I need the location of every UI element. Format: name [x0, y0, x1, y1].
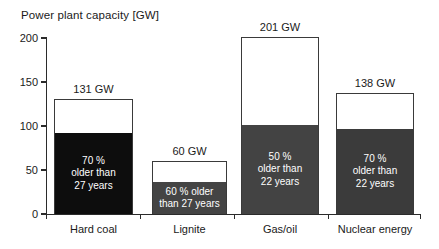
- chart-figure: Power plant capacity [GW] 050100150200 1…: [0, 0, 439, 249]
- bar-inner-label-3: 70 %older than22 years: [353, 153, 397, 191]
- y-axis-line: [46, 37, 47, 215]
- bar-value-label-1: 60 GW: [172, 145, 206, 157]
- y-tick-100: [41, 125, 46, 126]
- category-label-nuclear-energy: Nuclear energy: [338, 223, 413, 235]
- bar-inner-label-1: 60 % olderthan 27 years: [159, 186, 220, 211]
- y-tick-label-50: 50: [2, 164, 38, 176]
- x-tick-0: [46, 214, 47, 219]
- y-tick-150: [41, 81, 46, 82]
- x-tick-3: [328, 214, 329, 219]
- x-tick-1: [140, 214, 141, 219]
- y-tick-50: [41, 169, 46, 170]
- x-tick-4: [420, 214, 421, 219]
- y-tick-label-100: 100: [2, 120, 38, 132]
- y-tick-label-150: 150: [2, 76, 38, 88]
- y-tick-200: [41, 37, 46, 38]
- y-tick-label-0: 0: [2, 208, 38, 220]
- plot-area: 050100150200 131 GW70 %older than27 year…: [0, 0, 439, 249]
- x-tick-2: [234, 214, 235, 219]
- bar-value-label-3: 138 GW: [355, 77, 395, 89]
- category-label-gas-oil: Gas/oil: [263, 223, 297, 235]
- category-label-hard-coal: Hard coal: [70, 223, 117, 235]
- bar-inner-label-0: 70 %older than27 years: [71, 155, 115, 193]
- bar-inner-label-2: 50 %older than22 years: [258, 151, 302, 189]
- bar-value-label-2: 201 GW: [260, 21, 300, 33]
- bar-value-label-0: 131 GW: [73, 83, 113, 95]
- category-label-lignite: Lignite: [173, 223, 205, 235]
- y-tick-label-200: 200: [2, 32, 38, 44]
